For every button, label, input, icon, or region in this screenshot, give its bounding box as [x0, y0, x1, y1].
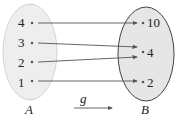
set-b-label: B	[141, 102, 149, 117]
set-a-element: 3	[18, 35, 25, 50]
set-a-element: 2	[18, 55, 25, 70]
set-b-element: 4	[147, 45, 154, 60]
set-b-element: 10	[147, 15, 160, 30]
function-label: g	[80, 91, 87, 106]
set-a-ellipse	[3, 4, 57, 100]
set-b-ellipse	[118, 7, 174, 101]
set-a-label: A	[24, 102, 33, 117]
function-mapping-diagram: 4 3 2 1 10 4 2 A B g	[0, 0, 180, 120]
set-a-element: 1	[18, 75, 25, 90]
set-a-element: 4	[18, 15, 25, 30]
set-b-element: 2	[147, 75, 154, 90]
